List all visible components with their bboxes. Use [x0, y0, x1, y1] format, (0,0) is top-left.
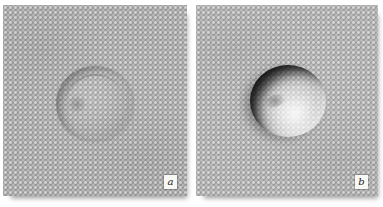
- vesicle-photo-a: [56, 66, 134, 142]
- panel-label-b: b: [355, 175, 368, 189]
- panel-label-a: a: [164, 175, 177, 189]
- figure-micrograph-pair: a b: [0, 0, 383, 207]
- micrograph-panel-b: b: [196, 5, 378, 196]
- vesicle-photo-b: [250, 65, 326, 137]
- micrograph-panel-a: a: [3, 5, 187, 196]
